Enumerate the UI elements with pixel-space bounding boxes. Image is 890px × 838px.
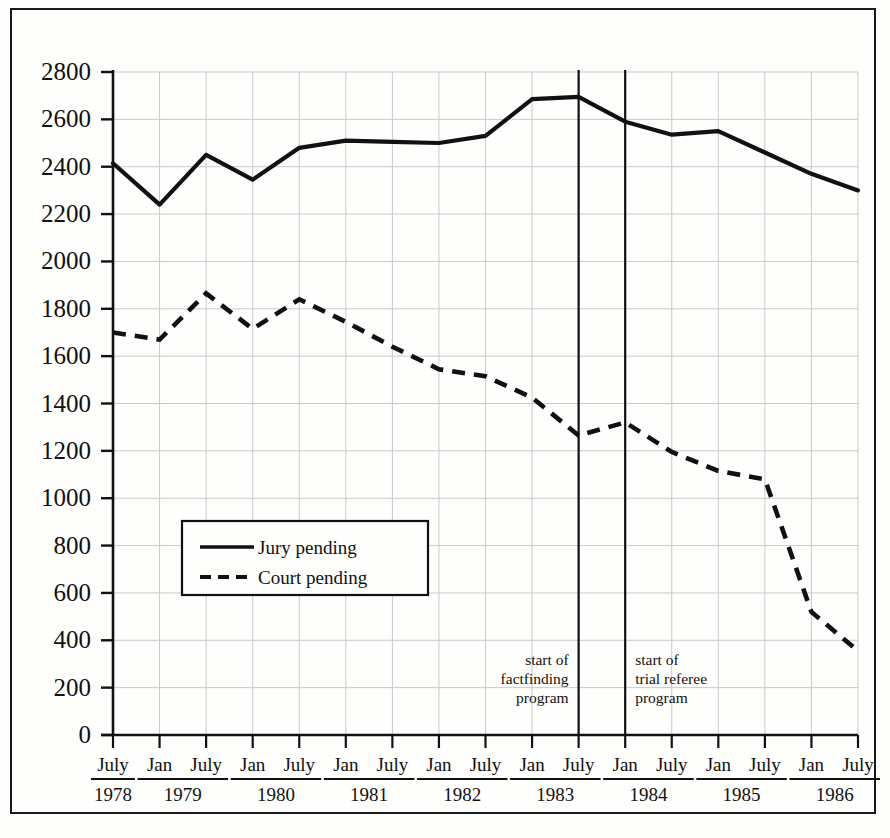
y-axis-tick-label: 800: [54, 532, 92, 559]
x-axis-month-label: July: [656, 754, 688, 775]
y-axis-tick-label: 2400: [41, 153, 91, 180]
x-axis-month-label: Jan: [240, 754, 266, 775]
event-marker-lines: [579, 70, 626, 735]
x-axis-year-label: 1983: [536, 784, 574, 805]
y-axis-tick-label: 2600: [41, 105, 91, 132]
annotation-line: start of: [525, 651, 569, 668]
y-axis-tick-label: 0: [79, 721, 92, 748]
y-axis-tick-label: 1800: [41, 295, 91, 322]
x-axis-year-label: 1981: [350, 784, 388, 805]
y-axis-tick-label: 1200: [41, 437, 91, 464]
x-axis-month-label: July: [283, 754, 315, 775]
annotation-line: start of: [635, 651, 679, 668]
chart-legend: Jury pendingCourt pending: [182, 521, 428, 595]
annotation-line: program: [516, 689, 569, 706]
y-axis-tick-label: 1000: [41, 484, 91, 511]
x-axis-year-groups: 197819791980198119821983198419851986: [91, 779, 880, 805]
x-axis-year-label: 1982: [443, 784, 481, 805]
x-axis-month-label: Jan: [613, 754, 639, 775]
x-axis-month-label: Jan: [706, 754, 732, 775]
chart-figure: 0200400600800100012001400160018002000220…: [0, 0, 890, 838]
y-axis-tick-label: 200: [54, 674, 92, 701]
x-axis-month-label: July: [842, 754, 874, 775]
line-chart: 0200400600800100012001400160018002000220…: [0, 0, 890, 838]
x-axis-year-label: 1979: [164, 784, 202, 805]
y-axis-tick-label: 2800: [41, 58, 91, 85]
y-axis-tick-label: 1400: [41, 390, 91, 417]
x-axis-month-label: July: [377, 754, 409, 775]
x-axis-month-label: Jan: [519, 754, 545, 775]
y-axis-tick-label: 1600: [41, 342, 91, 369]
x-axis-month-label: July: [190, 754, 222, 775]
x-axis-year-label: 1986: [816, 784, 854, 805]
x-axis-month-label: Jan: [426, 754, 452, 775]
x-axis-month-label: Jan: [333, 754, 359, 775]
x-axis-month-label: July: [563, 754, 595, 775]
y-axis-labels: 0200400600800100012001400160018002000220…: [41, 58, 91, 748]
x-axis-month-label: Jan: [799, 754, 825, 775]
x-axis-ticks: [113, 735, 858, 748]
annotation-line: program: [635, 689, 688, 706]
x-axis-month-label: July: [97, 754, 129, 775]
legend-label: Jury pending: [258, 537, 357, 558]
x-axis-year-label: 1985: [723, 784, 761, 805]
y-axis-ticks: [101, 72, 113, 735]
x-axis-year-label: 1978: [94, 784, 132, 805]
x-axis-month-label: July: [470, 754, 502, 775]
x-axis-month-label: July: [749, 754, 781, 775]
annotation-line: trial referee: [635, 670, 707, 687]
axes: [101, 70, 858, 735]
x-axis-month-labels: JulyJanJulyJanJulyJanJulyJanJulyJanJulyJ…: [97, 754, 874, 775]
x-axis-year-label: 1980: [257, 784, 295, 805]
y-axis-tick-label: 2200: [41, 200, 91, 227]
y-axis-tick-label: 400: [54, 626, 92, 653]
x-axis-year-label: 1984: [629, 784, 668, 805]
y-axis-tick-label: 2000: [41, 247, 91, 274]
annotation-line: factfinding: [501, 670, 569, 687]
y-axis-tick-label: 600: [54, 579, 92, 606]
legend-label: Court pending: [258, 567, 368, 588]
gridlines: [113, 72, 858, 735]
x-axis-month-label: Jan: [147, 754, 173, 775]
chart-annotations: start offactfindingprogramstart oftrial …: [501, 651, 708, 706]
